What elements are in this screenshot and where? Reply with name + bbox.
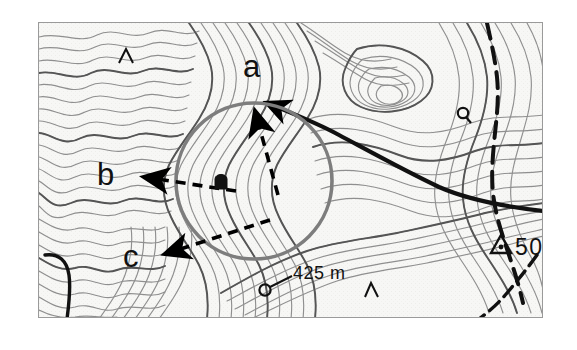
label-a: a xyxy=(243,49,261,84)
map-canvas: a b c 425 m 50 xyxy=(39,23,543,318)
trig-point-label: 50 xyxy=(515,234,543,260)
label-c: c xyxy=(123,239,139,274)
topographic-map-figure: a b c 425 m 50 topographic-map-excerpt #… xyxy=(0,0,577,350)
spot-height-label: 425 m xyxy=(293,263,346,283)
figure-type: topographic-map-excerpt xyxy=(0,0,1,1)
circle-marker-2-glyph: Q xyxy=(0,0,1,1)
triangle-marker-1-glyph: Δ xyxy=(0,0,1,1)
triangle-marker-2-glyph: Δ xyxy=(0,0,1,1)
map-frame: a b c 425 m 50 xyxy=(38,22,543,318)
contour-color-value: #8c8c8c xyxy=(0,0,1,1)
circle-color-value: #7a7a7a xyxy=(0,0,1,1)
map-background xyxy=(39,23,543,318)
building-symbol xyxy=(215,175,227,190)
label-b: b xyxy=(97,157,114,192)
circle-marker-1-glyph: Q xyxy=(0,0,1,1)
